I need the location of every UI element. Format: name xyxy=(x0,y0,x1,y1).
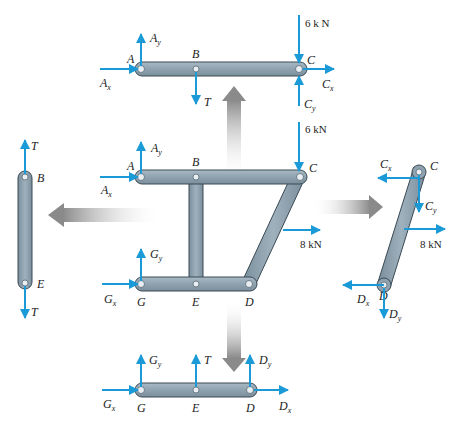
fbd-member-ged: Gx Gy T Dy Dx G E D xyxy=(102,353,292,415)
frame-pin-g xyxy=(138,281,145,288)
label-gx-bottom: Gx xyxy=(103,397,116,413)
fbd-member-be: T B E T xyxy=(18,139,45,319)
frame-label-gx: Gx xyxy=(104,292,117,308)
frame-label-e: E xyxy=(191,295,200,309)
frame-member-be xyxy=(189,176,203,284)
label-g-bottom: G xyxy=(137,401,146,415)
pin-a xyxy=(138,66,145,73)
pin-e-bottom xyxy=(193,387,199,393)
member-be-bar xyxy=(18,171,32,289)
frame-label-ay: Ay xyxy=(150,141,162,157)
label-c-right: C xyxy=(430,159,439,173)
frame-label-ax: Ax xyxy=(100,183,112,199)
transfer-arrow-down xyxy=(222,300,246,372)
pin-d-bottom xyxy=(247,387,254,394)
label-dx-right: Dx xyxy=(356,292,370,308)
member-abc-bar xyxy=(135,62,307,76)
label-e-bottom: E xyxy=(191,401,200,415)
pin-g-bottom xyxy=(138,387,145,394)
pin-b-left xyxy=(22,174,28,180)
label-d-bottom: D xyxy=(245,401,255,415)
transfer-arrow-up xyxy=(222,86,246,180)
label-t: T xyxy=(204,95,212,109)
frame-pin-c xyxy=(297,174,304,181)
frame-label-8kn: 8 kN xyxy=(300,238,322,250)
label-cx: Cx xyxy=(322,77,334,93)
transfer-arrow-left xyxy=(48,203,163,227)
frame-pin-b xyxy=(193,174,199,180)
label-dx-bottom: Dx xyxy=(278,399,292,415)
member-cd-bar xyxy=(378,167,425,288)
label-cy: Cy xyxy=(304,97,316,113)
pin-c xyxy=(296,66,303,73)
label-dy-bottom: Dy xyxy=(258,353,272,369)
frame-diagram: Ax Ay A B T C 6 k N Cx Cy A B xyxy=(0,0,458,422)
label-gy-bottom: Gy xyxy=(149,353,162,369)
frame-label-g: G xyxy=(137,295,146,309)
label-e-left: E xyxy=(36,277,45,291)
label-t-bottom: T xyxy=(31,305,39,319)
transfer-arrow-right xyxy=(312,195,383,219)
label-a: A xyxy=(126,52,135,66)
fbd-member-cd: C Cx Cy 8 kN D Dx Dy xyxy=(343,157,445,323)
fbd-member-abc: Ax Ay A B T C 6 k N Cx Cy xyxy=(99,15,334,113)
label-c: C xyxy=(307,53,316,67)
label-ax: Ax xyxy=(99,76,111,92)
label-t-bottom-member: T xyxy=(204,353,212,367)
label-t-top: T xyxy=(31,139,39,153)
pin-e-left xyxy=(22,280,28,286)
frame-pin-a xyxy=(138,174,145,181)
frame-pin-e xyxy=(193,281,199,287)
frame-label-b: B xyxy=(192,155,200,169)
label-cx-right: Cx xyxy=(380,157,392,173)
frame-label-d: D xyxy=(244,295,254,309)
frame-pin-d xyxy=(246,281,253,288)
frame-member-abc xyxy=(135,170,307,184)
label-b: B xyxy=(192,47,200,61)
label-b-left: B xyxy=(37,171,45,185)
label-dy-right: Dy xyxy=(388,307,402,323)
pin-c-right xyxy=(416,169,422,175)
frame-label-c: C xyxy=(309,161,318,175)
frame-label-gy: Gy xyxy=(150,247,163,263)
frame-label-a: A xyxy=(126,159,135,173)
label-8kn-right: 8 kN xyxy=(420,238,442,250)
label-cy-right: Cy xyxy=(425,199,437,215)
pin-b xyxy=(193,66,199,72)
label-ay: Ay xyxy=(149,31,161,47)
frame-label-6kn: 6 kN xyxy=(305,123,327,135)
label-6kn: 6 k N xyxy=(305,17,330,29)
